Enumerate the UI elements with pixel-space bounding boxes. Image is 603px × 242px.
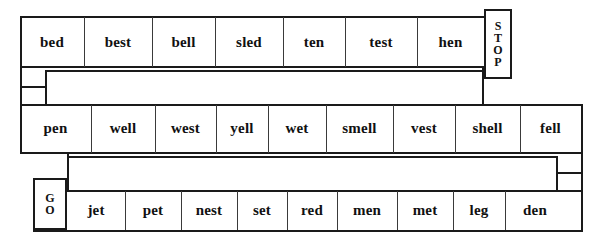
- word-cell[interactable]: leg: [453, 198, 505, 222]
- word-cell[interactable]: smell: [326, 116, 393, 140]
- stop-sign-marker: S T O P: [484, 9, 512, 79]
- word-cell[interactable]: test: [345, 30, 417, 54]
- connector1-inner-top: [45, 70, 483, 72]
- stop-letter: P: [494, 56, 501, 68]
- word-cell[interactable]: jet: [67, 198, 125, 222]
- row1-top-border: [20, 16, 484, 18]
- word-cell[interactable]: men: [337, 198, 397, 222]
- word-cell[interactable]: best: [84, 30, 152, 54]
- row2-top-border: [20, 104, 583, 106]
- word-cell[interactable]: west: [155, 116, 216, 140]
- word-cell[interactable]: nest: [181, 198, 237, 222]
- word-cell[interactable]: ten: [283, 30, 345, 54]
- word-cell[interactable]: well: [91, 116, 155, 140]
- connector1-inner-left: [45, 70, 47, 106]
- row1-bottom-border: [20, 66, 484, 68]
- connector2-inner-right: [556, 156, 558, 192]
- connector1-left-vertical: [20, 66, 22, 104]
- word-cell[interactable]: bell: [152, 30, 215, 54]
- word-cell[interactable]: pet: [125, 198, 181, 222]
- word-cell[interactable]: yell: [216, 116, 268, 140]
- word-cell[interactable]: sled: [215, 30, 283, 54]
- word-cell[interactable]: bed: [20, 30, 84, 54]
- connector2-right-stub: [557, 172, 583, 174]
- word-cell[interactable]: den: [505, 198, 565, 222]
- row2-right-border: [581, 104, 583, 154]
- word-cell[interactable]: shell: [455, 116, 520, 140]
- connector1-left-stub: [20, 86, 46, 88]
- word-cell[interactable]: pen: [20, 116, 91, 140]
- row2-bottom-border: [20, 152, 583, 154]
- worksheet-canvas: bed best bell sled ten test hen S T O P …: [0, 0, 603, 242]
- word-cell[interactable]: vest: [393, 116, 455, 140]
- connector2-inner-top: [67, 156, 558, 158]
- stop-letter: S: [495, 20, 502, 32]
- word-cell[interactable]: fell: [520, 116, 581, 140]
- connector2-left-vertical: [67, 152, 69, 192]
- connector2-right-vertical: [581, 152, 583, 190]
- go-sign-marker: G O: [33, 178, 67, 230]
- go-letter: O: [45, 204, 54, 216]
- row3-bottom-border: [33, 230, 583, 232]
- word-cell[interactable]: set: [237, 198, 287, 222]
- word-cell[interactable]: met: [397, 198, 453, 222]
- word-cell[interactable]: wet: [268, 116, 326, 140]
- row3-right-border: [581, 190, 583, 232]
- word-cell[interactable]: red: [287, 198, 337, 222]
- word-cell[interactable]: hen: [417, 30, 484, 54]
